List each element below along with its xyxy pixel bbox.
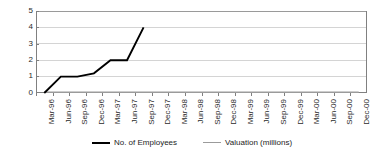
line-chart: 5 4 3 2 1 0 No. of Employees Valuation (… (0, 0, 384, 159)
y-tick-label-5: 5 (3, 7, 33, 15)
x-tick-mark (317, 93, 318, 96)
x-tick-label: Dec-00 (363, 99, 371, 125)
y-tick-label-4: 4 (3, 23, 33, 31)
x-tick-mark (86, 93, 87, 96)
x-tick-label: Jun-97 (131, 99, 139, 123)
x-tick-label: Jun-00 (330, 99, 338, 123)
x-tick-mark (334, 93, 335, 96)
y-tick-label-1: 1 (3, 72, 33, 80)
legend-label-employees: No. of Employees (114, 138, 177, 147)
x-tick-mark (268, 93, 269, 96)
series-layer (36, 11, 367, 93)
x-tick-mark (235, 93, 236, 96)
chart-legend: No. of Employees Valuation (millions) (0, 138, 384, 147)
x-tick-label: Sep-96 (81, 99, 89, 125)
x-tick-mark (36, 93, 37, 96)
legend-label-valuation: Valuation (millions) (225, 138, 292, 147)
x-tick-label: Dec-99 (297, 99, 305, 125)
x-tick-label: Mar-97 (114, 99, 122, 124)
x-tick-mark (218, 93, 219, 96)
x-tick-label: Mar-98 (181, 99, 189, 124)
x-tick-label: Mar-96 (48, 99, 56, 124)
legend-entry-valuation: Valuation (millions) (203, 138, 292, 147)
x-tick-mark (350, 93, 351, 96)
x-tick-mark (185, 93, 186, 96)
x-tick-mark (53, 93, 54, 96)
x-tick-mark (202, 93, 203, 96)
x-tick-label: Dec-97 (164, 99, 172, 125)
x-tick-label: Dec-96 (98, 99, 106, 125)
x-tick-label: Dec-98 (230, 99, 238, 125)
x-tick-label: Mar-99 (247, 99, 255, 124)
x-tick-mark (301, 93, 302, 96)
x-tick-label: Sep-97 (148, 99, 156, 125)
x-tick-mark (102, 93, 103, 96)
x-tick-label: Mar-00 (313, 99, 321, 124)
x-tick-mark (119, 93, 120, 96)
x-tick-label: Jun-99 (263, 99, 271, 123)
x-tick-mark (251, 93, 252, 96)
legend-entry-employees: No. of Employees (92, 138, 177, 147)
y-tick-label-0: 0 (3, 89, 33, 97)
x-tick-mark (152, 93, 153, 96)
y-tick-label-3: 3 (3, 40, 33, 48)
x-tick-label: Jun-96 (65, 99, 73, 123)
legend-swatch-icon-valuation (203, 142, 221, 143)
x-tick-mark (69, 93, 70, 96)
y-axis: 5 4 3 2 1 0 (0, 11, 33, 93)
x-tick-label: Jun-98 (197, 99, 205, 123)
x-tick-label: Sep-99 (280, 99, 288, 125)
y-tick-label-2: 2 (3, 56, 33, 64)
legend-swatch-icon-employees (92, 142, 110, 144)
x-tick-mark (284, 93, 285, 96)
series-line-employees (44, 27, 143, 93)
x-tick-label: Sep-98 (214, 99, 222, 125)
x-tick-mark (168, 93, 169, 96)
x-tick-mark (135, 93, 136, 96)
x-tick-label: Sep-00 (346, 99, 354, 125)
